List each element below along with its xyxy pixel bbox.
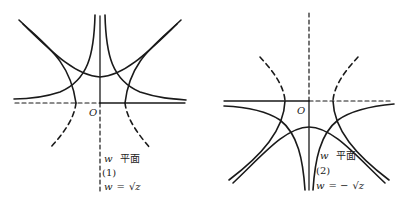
fig1-origin-label: O (89, 107, 97, 118)
fig1-outer-right-dashed (125, 103, 150, 148)
figure-2-w-neg-sqrt-z (224, 13, 394, 190)
fig1-outer-left-solid (19, 20, 76, 103)
fig2-plane-var: w (320, 150, 329, 161)
fig2-plane-label: w 平面 (320, 145, 356, 162)
fig1-formula-rhs: √z (129, 181, 141, 192)
fig1-formula-var: w (104, 181, 113, 192)
fig2-plane-text: 平面 (336, 150, 356, 161)
fig1-plane-text: 平面 (120, 153, 140, 164)
fig1-outer-left-dashed (50, 103, 76, 148)
fig2-formula-rhs: √z (353, 180, 365, 191)
diagram-canvas: O w 平面 (1) w = √z O w 平面 (2) w = − √z (0, 0, 402, 207)
fig1-plane-var: w (104, 153, 113, 164)
fig2-outer-left-dashed (260, 57, 285, 101)
fig2-outer-right-solid (333, 101, 389, 180)
fig2-formula: w = − √z (316, 175, 365, 192)
fig1-outer-right-solid (125, 20, 181, 103)
fig2-outer-left-solid (229, 101, 285, 180)
fig2-formula-var: w (316, 180, 325, 191)
fig1-formula: w = √z (104, 176, 141, 193)
figure-1-w-sqrt-z (14, 15, 186, 193)
fig2-formula-eq: = − (329, 180, 349, 191)
fig1-plane-label: w 平面 (104, 148, 140, 165)
fig1-formula-eq: = (117, 181, 125, 192)
fig2-outer-right-dashed (333, 57, 358, 101)
fig2-origin-label: O (297, 105, 305, 116)
